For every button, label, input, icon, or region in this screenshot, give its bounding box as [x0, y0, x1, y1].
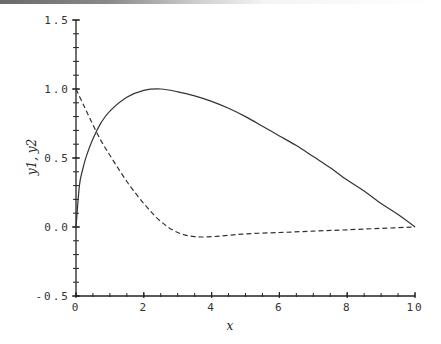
y-axis-label: y1, y2	[25, 139, 39, 176]
y-axis-ticks: -0.50.00.51.01.5	[36, 14, 81, 303]
x-tick-label: 2	[139, 301, 148, 314]
data-series	[76, 89, 415, 237]
y-tick-label: 0.0	[44, 221, 70, 234]
y-tick-label: 1.5	[44, 14, 70, 27]
x-tick-label: 8	[343, 301, 352, 314]
series-y1-line	[76, 89, 415, 227]
y-tick-label: 1.0	[44, 83, 70, 96]
x-tick-label: 10	[406, 301, 423, 314]
x-tick-label: 0	[72, 301, 81, 314]
y-tick-label: 0.5	[44, 152, 70, 165]
axes	[76, 20, 415, 296]
series-y2-line	[76, 89, 415, 237]
x-tick-label: 4	[207, 301, 216, 314]
cropped-caption	[0, 339, 441, 344]
x-axis-label: x	[227, 319, 234, 333]
x-axis-ticks: 0246810	[72, 292, 424, 314]
x-tick-label: 6	[275, 301, 284, 314]
y-tick-label: -0.5	[36, 290, 71, 303]
line-chart: -0.50.00.51.01.5 0246810 x y1, y2	[0, 0, 441, 344]
